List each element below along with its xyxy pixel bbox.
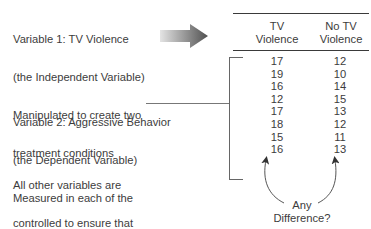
arrow-to-no-tv-violence-icon bbox=[318, 160, 336, 203]
any-difference-question: Any Difference? bbox=[267, 199, 337, 224]
arrow-to-tv-violence-icon bbox=[265, 160, 284, 203]
comparison-arrows bbox=[0, 0, 371, 229]
